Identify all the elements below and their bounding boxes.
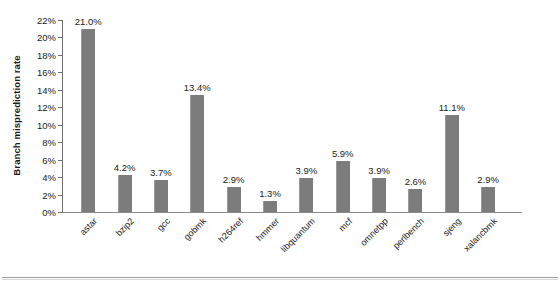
- x-tick-label: libquantum: [279, 216, 317, 254]
- x-tick-label: astar: [78, 216, 99, 237]
- bar: [408, 189, 422, 212]
- bar-value-label: 3.9%: [349, 165, 409, 176]
- bar-chart-figure: Branch misprediction rate 0%2%4%6%8%10%1…: [0, 0, 560, 293]
- bar: [372, 178, 386, 212]
- bar: [445, 115, 459, 212]
- x-tick-label: bzip2: [113, 216, 135, 238]
- bar-value-label: 2.6%: [385, 176, 445, 187]
- y-tick-label: 22%: [10, 16, 56, 26]
- bar-value-label: 5.9%: [313, 148, 373, 159]
- bar: [481, 187, 495, 212]
- y-tick-mark: [58, 160, 63, 161]
- y-tick-mark: [58, 177, 63, 178]
- bar-value-label: 2.9%: [204, 174, 264, 185]
- y-tick-label: 12%: [10, 103, 56, 113]
- y-tick-label: 4%: [10, 173, 56, 183]
- x-tick-label: gcc: [155, 216, 172, 233]
- y-tick-label: 18%: [10, 51, 56, 61]
- bar: [190, 95, 204, 212]
- x-tick-label: omnetpp: [358, 216, 390, 248]
- bar-value-label: 11.1%: [422, 102, 482, 113]
- x-tick-label: gobmk: [182, 216, 208, 242]
- plot-area: 0%2%4%6%8%10%12%14%16%18%20%22% 21.0%4.2…: [62, 20, 522, 212]
- y-tick-label: 0%: [10, 208, 56, 218]
- bar: [336, 161, 350, 212]
- x-tick-label: xalancbmk: [462, 216, 499, 253]
- bar: [299, 178, 313, 212]
- bar-value-label: 3.9%: [276, 165, 336, 176]
- bar: [263, 201, 277, 212]
- y-tick-mark: [58, 195, 63, 196]
- y-axis-line: [62, 20, 63, 212]
- bar-value-label: 13.4%: [167, 82, 227, 93]
- bar-value-label: 2.9%: [458, 174, 518, 185]
- bar-value-label: 3.7%: [131, 167, 191, 178]
- y-tick-label: 2%: [10, 191, 56, 201]
- x-tick-label: sjeng: [441, 216, 463, 238]
- bar: [227, 187, 241, 212]
- bar: [154, 180, 168, 212]
- x-tick-label: mcf: [336, 216, 353, 233]
- y-tick-mark: [58, 107, 63, 108]
- y-tick-mark: [58, 125, 63, 126]
- footer-divider-shadow: [2, 279, 558, 280]
- bar: [81, 29, 95, 212]
- bar-value-label: 1.3%: [240, 188, 300, 199]
- y-tick-mark: [58, 55, 63, 56]
- y-tick-mark: [58, 212, 63, 213]
- y-tick-label: 6%: [10, 156, 56, 166]
- y-tick-label: 10%: [10, 121, 56, 131]
- y-tick-label: 20%: [10, 33, 56, 43]
- y-tick-label: 14%: [10, 86, 56, 96]
- x-tick-label: perlbench: [392, 216, 427, 251]
- y-tick-mark: [58, 90, 63, 91]
- bar-value-label: 21.0%: [58, 16, 118, 27]
- y-tick-mark: [58, 37, 63, 38]
- bar: [118, 175, 132, 212]
- y-tick-mark: [58, 142, 63, 143]
- y-tick-mark: [58, 72, 63, 73]
- y-tick-label: 8%: [10, 138, 56, 148]
- x-axis-line: [62, 212, 522, 213]
- y-axis-title: Branch misprediction rate: [11, 16, 22, 216]
- x-tick-label: h264ref: [216, 216, 245, 245]
- y-tick-label: 16%: [10, 68, 56, 78]
- x-tick-label: hmmer: [254, 216, 281, 243]
- footer-divider: [2, 277, 558, 278]
